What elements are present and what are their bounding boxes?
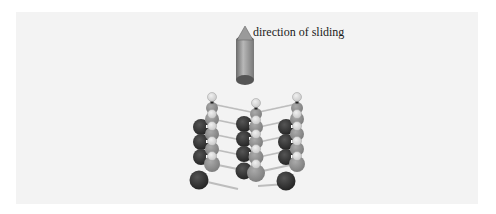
lattice-column-1 [190, 93, 221, 190]
arrow-up-cylinder-icon [236, 26, 254, 85]
sliding-lattice-diagram [0, 0, 496, 214]
direction-caption: direction of sliding [253, 25, 344, 40]
